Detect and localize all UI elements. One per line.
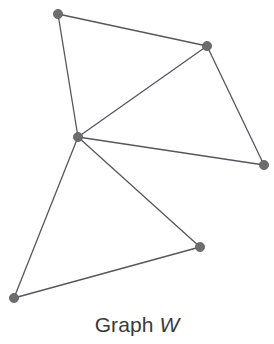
graph-edge (58, 14, 78, 137)
figure-caption: Graph W (0, 311, 274, 339)
edge-layer (14, 14, 264, 298)
graph-edge (78, 137, 200, 247)
node-layer (9, 9, 268, 302)
graph-edge (14, 137, 78, 298)
graph-drawing (0, 0, 274, 344)
graph-vertex (202, 41, 211, 50)
caption-graph-label: W (159, 313, 179, 336)
graph-edge (207, 46, 264, 165)
caption-prefix-text: Graph (95, 313, 160, 336)
graph-edge (58, 14, 207, 46)
graph-vertex (9, 293, 18, 302)
graph-edge (14, 247, 200, 298)
graph-vertex (73, 132, 82, 141)
graph-edge (78, 137, 264, 165)
graph-figure: Graph W (0, 0, 274, 344)
caption-prefix: Graph (95, 313, 160, 336)
graph-vertex (195, 242, 204, 251)
graph-vertex (53, 9, 62, 18)
graph-vertex (259, 160, 268, 169)
graph-edge (78, 46, 207, 137)
